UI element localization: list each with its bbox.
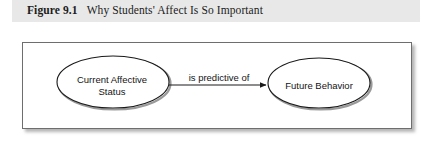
figure-caption: Figure 9.1Why Students' Affect Is So Imp… (27, 2, 407, 20)
target-node-label: Future Behavior (274, 80, 364, 92)
figure-title: Why Students' Affect Is So Important (87, 4, 263, 16)
source-node-label-line2: Status (62, 86, 162, 98)
source-node-label: Current Affective Status (62, 74, 162, 97)
figure-number-label: Figure 9.1 (27, 4, 78, 16)
edge-label: is predictive of (176, 72, 262, 83)
source-node-label-line1: Current Affective (62, 74, 162, 86)
target-node-label-line1: Future Behavior (274, 80, 364, 92)
